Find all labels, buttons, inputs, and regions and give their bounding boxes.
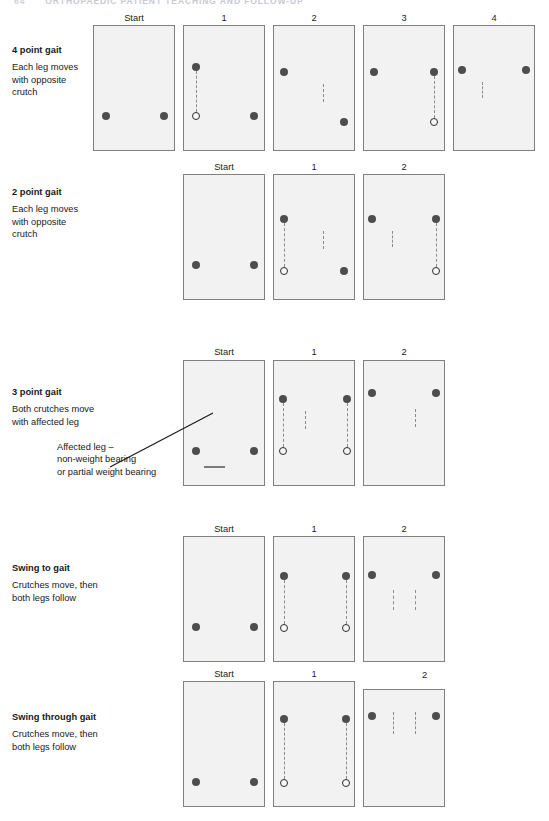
crutch-tip-left [192, 261, 200, 269]
section-swing-to-gait: Swing to gait Crutches move, then both l… [0, 515, 549, 660]
crutch-tip-left-previous [280, 624, 288, 632]
crutch-tip-left [368, 712, 376, 720]
footprint-affected-leg-moved-forward [296, 365, 315, 412]
footprint-right-moved-forward [314, 38, 333, 85]
gait-panel-1 [273, 174, 355, 300]
crutch-tip-left-previous [192, 112, 200, 120]
crutch-tip-right [250, 261, 258, 269]
crutch-tip-left [192, 778, 200, 786]
footprint-left-previous [384, 732, 403, 779]
gait-panel-start [183, 681, 265, 807]
movement-connector-left-crutch [284, 723, 285, 779]
gait-panel-start [93, 25, 175, 151]
crutch-tip-left-moved-forward [280, 215, 288, 223]
movement-connector-left-crutch [284, 580, 285, 624]
footprint-left-weight-bearing [206, 601, 225, 648]
footprint-left-weight-bearing [206, 722, 225, 769]
gait-panel-1 [273, 360, 355, 486]
movement-connector-left-crutch [283, 403, 284, 447]
footprint-left-weight-bearing [206, 239, 225, 286]
crutch-tip-right [432, 712, 440, 720]
footprint-left-previous [472, 96, 491, 143]
crutch-tip-right [250, 447, 258, 455]
footprint-right-weight-bearing [138, 90, 157, 137]
crutch-tip-right [340, 118, 348, 126]
footprint-right-weight-bearing [318, 427, 337, 474]
crutch-tip-right [432, 571, 440, 579]
crutch-tip-right-moved-forward [430, 68, 438, 76]
step-label-3: 3 [363, 13, 445, 23]
footprint-right-weight-bearing [404, 38, 423, 85]
step-label-start: Start [183, 347, 265, 357]
crutch-tip-right [522, 66, 530, 74]
step-label-start: Start [183, 162, 265, 172]
crutch-tip-right-moved-forward [432, 215, 440, 223]
crutch-tip-left-moved-forward [192, 63, 200, 71]
label-swing-through-gait: Swing through gait Crutches move, then b… [12, 712, 132, 753]
movement-connector-right-crutch [347, 403, 348, 447]
footprint-right-weight-bearing [494, 36, 513, 83]
gait-description: Crutches move, then both legs follow [12, 579, 132, 604]
footprint-right-weight-bearing [404, 185, 423, 232]
step-label-1: 1 [273, 524, 355, 534]
gait-description: Each leg moves with opposite crutch [12, 203, 132, 240]
crutch-tip-right-previous [342, 779, 350, 787]
gait-title: Swing through gait [12, 712, 132, 723]
crutch-tip-right [250, 778, 258, 786]
crutch-tip-left [102, 112, 110, 120]
section-swing-through-gait: Swing through gait Crutches move, then b… [0, 660, 549, 821]
step-label-start: Start [93, 13, 175, 23]
gait-panel-1 [273, 536, 355, 662]
gait-panel-4 [453, 25, 535, 151]
footprint-left-previous [384, 608, 403, 655]
gait-panel-start [183, 174, 265, 300]
footprint-right-weight-bearing [318, 724, 337, 771]
crutch-tip-right [340, 267, 348, 275]
callout-leader-diagonal [110, 410, 220, 470]
footprint-affected-leg-non-weight-bearing [384, 365, 403, 412]
movement-connector-right-crutch [434, 76, 435, 118]
step-label-2: 2 [363, 524, 445, 534]
step-label-1: 1 [183, 13, 265, 23]
crutch-tip-left [458, 66, 466, 74]
gait-title: 3 point gait [12, 387, 132, 398]
footprint-right-moved-forward [406, 363, 425, 410]
crutch-tip-left-previous [280, 267, 288, 275]
step-label-1: 1 [273, 669, 355, 679]
movement-connector-right-leg [415, 590, 416, 610]
gait-title: 2 point gait [12, 187, 132, 198]
crutch-tip-right-previous [430, 118, 438, 126]
movement-connector-left-crutch [196, 71, 197, 112]
section-three-point-gait: 3 point gait Both crutches move with aff… [0, 355, 549, 515]
footprint-left-moved-forward [384, 544, 403, 591]
footprint-right-weight-bearing [228, 90, 247, 137]
movement-connector-left-crutch [284, 223, 285, 267]
crutch-tip-right [432, 389, 440, 397]
crutch-tip-right [250, 623, 258, 631]
footprint-left-moved-forward [472, 36, 491, 83]
movement-connector-left-leg [393, 590, 394, 610]
footprint-left-weight-bearing [292, 247, 311, 294]
footprint-left-weight-bearing [296, 724, 315, 771]
gait-panel-2: 2 [363, 689, 445, 807]
footprint-left-previous [382, 245, 401, 292]
footprint-right-moved-forward [314, 185, 333, 232]
crutch-tip-left [368, 215, 376, 223]
crutch-tip-left [192, 623, 200, 631]
footprint-left-swung-through [384, 666, 403, 713]
gait-panel-3 [363, 25, 445, 151]
footprint-right-previous [406, 425, 425, 472]
crutch-tip-left-previous [280, 779, 288, 787]
gait-description: Crutches move, then both legs follow [12, 728, 132, 753]
footprint-left-weight-bearing [292, 98, 311, 145]
footprint-right-previous [406, 608, 425, 655]
crutch-tip-left-moved-forward [280, 572, 288, 580]
movement-connector-right-leg [415, 712, 416, 734]
movement-connector-left-leg [393, 712, 394, 734]
step-label-2: 2 [363, 162, 445, 172]
footprint-affected-leg-previous [296, 427, 315, 474]
footprint-left-weight-bearing [116, 90, 135, 137]
crutch-tip-right [160, 112, 168, 120]
movement-connector-right-crutch [436, 223, 437, 267]
step-label-start: Start [183, 524, 265, 534]
